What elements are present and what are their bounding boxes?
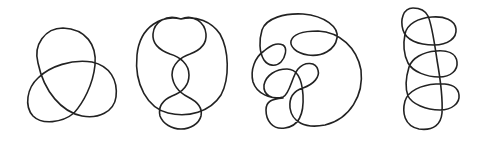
knot-diagram-figure [0,0,486,141]
knot-2-figure-eight-chain [137,17,228,129]
knot-4-twisted-coil [402,8,459,129]
knot-1-trefoil [28,28,117,122]
knot-3-complex [252,14,361,128]
knot-diagram-svg [0,0,486,141]
